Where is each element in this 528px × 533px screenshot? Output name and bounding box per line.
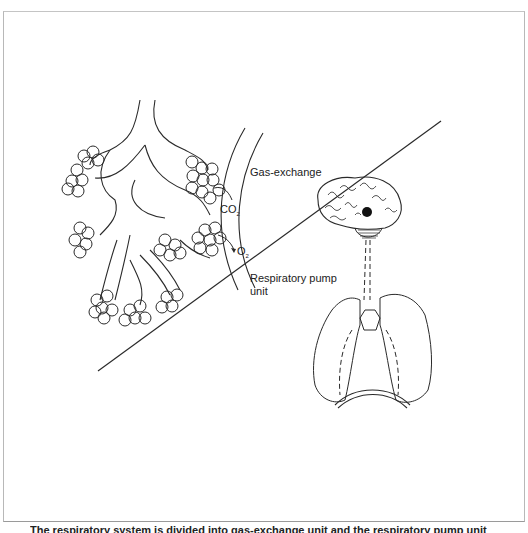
alveoli-cluster bbox=[62, 164, 88, 197]
alveoli-cluster bbox=[154, 234, 186, 261]
bronchial-tree bbox=[90, 100, 210, 305]
o2-text: O bbox=[237, 245, 246, 257]
o2-subscript: 2 bbox=[246, 253, 249, 259]
lungs-icon bbox=[314, 294, 432, 408]
respiratory-pump-line2: unit bbox=[250, 285, 337, 298]
alveoli-cluster bbox=[89, 290, 118, 324]
spinal-cord bbox=[364, 240, 370, 300]
o2-label: O2 bbox=[237, 245, 249, 263]
alveoli-cluster bbox=[78, 146, 104, 169]
alveoli-cluster bbox=[186, 156, 225, 204]
respiratory-pump-label: Respiratory pump unit bbox=[250, 272, 337, 298]
alveoli-cluster bbox=[192, 222, 226, 256]
respiratory-pump-line1: Respiratory pump bbox=[250, 272, 337, 285]
co2-label: CO2 bbox=[220, 203, 240, 221]
co2-subscript: 2 bbox=[237, 211, 240, 217]
brain-icon bbox=[318, 177, 402, 238]
alveoli-cluster bbox=[69, 222, 94, 258]
alveoli-cluster bbox=[156, 289, 183, 313]
co2-text: CO bbox=[220, 203, 237, 215]
gas-exchange-label: Gas-exchange bbox=[250, 166, 322, 179]
figure-caption: The respiratory system is divided into g… bbox=[30, 524, 500, 533]
respiratory-diagram bbox=[0, 0, 528, 533]
alveoli-cluster bbox=[119, 300, 151, 326]
membrane-arc-inner bbox=[239, 133, 263, 288]
alveoli-clusters bbox=[62, 146, 226, 326]
